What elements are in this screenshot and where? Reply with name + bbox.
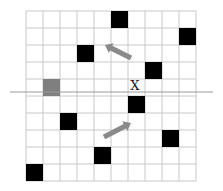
x-label: X [130, 78, 140, 93]
black-cell [60, 113, 77, 130]
black-cell [162, 130, 179, 147]
black-cell [145, 62, 162, 79]
black-cell [77, 45, 94, 62]
grid-diagram: X [0, 0, 223, 191]
black-cell [94, 147, 111, 164]
black-cell [179, 28, 196, 45]
gray-cell [43, 79, 60, 96]
black-cell [111, 11, 128, 28]
black-cell [26, 164, 43, 181]
black-cell [128, 96, 145, 113]
